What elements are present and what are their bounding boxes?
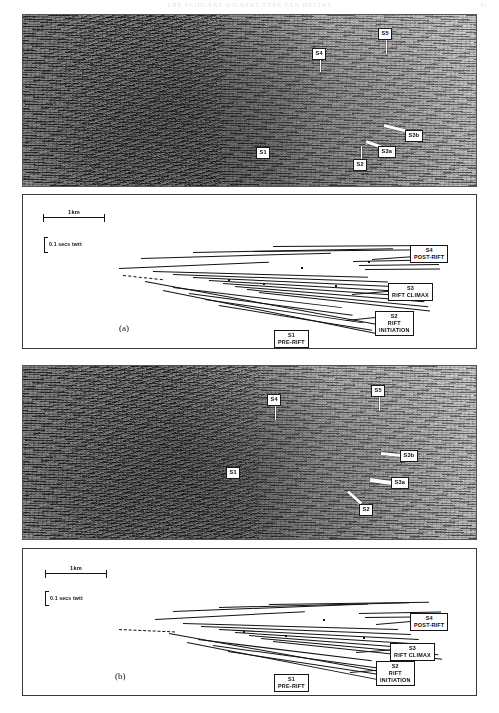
interpretation-box-line: RIFT [379, 320, 410, 327]
horizon-right-2-a [359, 264, 439, 266]
seismic-label-s1-b[interactable]: S1 [226, 467, 240, 479]
scale-bar-horizontal-a: 1km [43, 209, 105, 223]
interpretation-box-line: RIFT CLIMAX [394, 652, 431, 659]
horizon-marker [368, 261, 370, 263]
scale-vertical-a: 0.1 secs twtt [44, 237, 96, 251]
horizon-s4d-b [155, 611, 305, 620]
horizon-marker [228, 279, 230, 281]
seismic-section-a [22, 14, 477, 187]
interpretation-box-line: POST-RIFT [414, 254, 444, 261]
horizon-right-3-a [365, 268, 440, 269]
interpretation-box-line: S1 [278, 332, 305, 339]
interpretation-box-line: RIFT CLIMAX [392, 292, 429, 299]
panel-letter-a: (a) [119, 323, 129, 333]
scale-vertical-b: 0.1 secs twtt [45, 591, 97, 604]
seismic-label-s1-a[interactable]: S1 [256, 147, 270, 159]
scale-bar-label-b: 1km [45, 565, 107, 571]
interpretation-box-s3-b[interactable]: S3 RIFT CLIMAX [390, 643, 435, 661]
scale-bar-line-b [45, 573, 107, 574]
interpretation-box-s1-b[interactable]: S1 PRE-RIFT [274, 674, 309, 692]
interpretation-box-s3-a[interactable]: S3 RIFT CLIMAX [388, 283, 433, 301]
leader-line-s4-b [275, 406, 276, 420]
interpretation-box-s4-a[interactable]: S4 POST-RIFT [410, 245, 448, 263]
seismic-texture-grain [23, 15, 476, 186]
page-number: 81 [481, 0, 487, 9]
interpretation-box-line: RIFT [380, 670, 411, 677]
interpretation-box-line: INITIATION [380, 677, 411, 684]
scale-vertical-label-a: 0.1 secs twtt [49, 241, 82, 247]
interpretation-box-line: S2 [380, 663, 411, 670]
seismic-label-s2-b[interactable]: S2 [359, 504, 373, 516]
interpretation-box-line: PRE-RIFT [278, 339, 305, 346]
scale-vertical-label-b: 0.1 secs twtt [50, 595, 83, 601]
running-head: THE PLIOCENE GILBERT-TYPE FAN DELTAS [0, 0, 499, 9]
seismic-label-s2-a[interactable]: S2 [353, 159, 367, 171]
horizon-marker [301, 267, 303, 269]
horizon-marker [323, 619, 325, 621]
seismic-label-s3a-a[interactable]: S3a [378, 146, 396, 158]
interpretation-box-line: S4 [414, 615, 444, 622]
leader-line-s5-b [379, 397, 380, 411]
leader-line-s5-a [386, 40, 387, 54]
interpretation-box-line: S4 [414, 247, 444, 254]
horizon-s4d-a [119, 262, 269, 269]
interpretation-box-line: S2 [379, 313, 410, 320]
scale-bar-tick-right-a [104, 214, 105, 222]
horizon-marker [335, 285, 337, 287]
interpretation-box-line: S3 [394, 645, 431, 652]
horizon-marker [243, 631, 245, 633]
horizon-s1-dashed-a [123, 275, 163, 280]
interpretation-box-line: POST-RIFT [414, 622, 444, 629]
horizon-marker [285, 635, 287, 637]
seismic-label-s3b-a[interactable]: S3b [405, 130, 423, 142]
seismic-label-s3a-b[interactable]: S3a [391, 477, 409, 489]
interpretation-box-s1-a[interactable]: S1 PRE-RIFT [274, 330, 309, 348]
interpretation-box-s4-b[interactable]: S4 POST-RIFT [410, 613, 448, 631]
scale-bar-tick-right-b [106, 570, 107, 578]
horizon-s1b-a [163, 290, 384, 335]
leader-line-s2-a [361, 146, 362, 160]
horizon-marker [363, 637, 365, 639]
horizon-s4e-a [273, 245, 431, 247]
scale-bar-line-a [43, 217, 105, 218]
seismic-label-s3b-b[interactable]: S3b [400, 450, 418, 462]
seismic-label-s5-a[interactable]: S5 [378, 28, 392, 40]
seismic-label-s4-a[interactable]: S4 [312, 48, 326, 60]
scale-vertical-bracket-b [45, 591, 49, 606]
scale-vertical-bracket-a [44, 237, 48, 253]
leader-line-s4-a [320, 60, 321, 72]
horizon-marker [263, 283, 265, 285]
scale-bar-label-a: 1km [43, 209, 105, 215]
scale-bar-tick-left-a [43, 214, 44, 222]
seismic-label-s4-b[interactable]: S4 [267, 394, 281, 406]
panel-letter-b: (b) [115, 671, 126, 681]
interpretation-box-line: INITIATION [379, 327, 410, 334]
horizon-s4-a [141, 253, 331, 259]
figure-page: THE PLIOCENE GILBERT-TYPE FAN DELTAS 81 … [0, 0, 499, 713]
interpretation-box-s2-b[interactable]: S2 RIFT INITIATION [376, 661, 415, 686]
interpretation-box-s2-a[interactable]: S2 RIFT INITIATION [375, 311, 414, 336]
seismic-label-s5-b[interactable]: S5 [371, 385, 385, 397]
interpretation-box-line: S3 [392, 285, 429, 292]
scale-bar-horizontal-b: 1km [45, 565, 107, 579]
interpretation-box-line: PRE-RIFT [278, 683, 305, 690]
interpretation-box-line: S1 [278, 676, 305, 683]
scale-bar-tick-left-b [45, 570, 46, 578]
horizon-s1-dashed-b [119, 629, 175, 632]
